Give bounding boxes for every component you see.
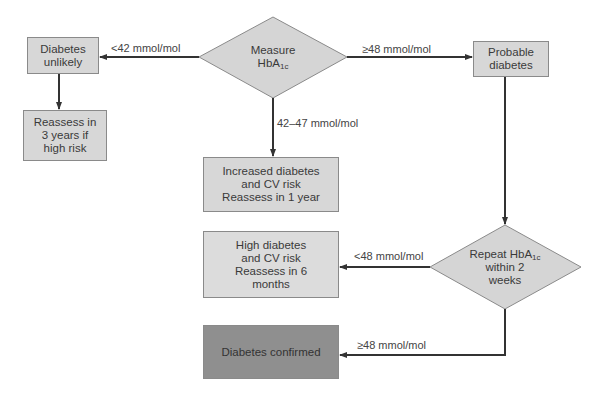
high-line2: and CV risk	[235, 252, 307, 265]
hba-subscript: 1c	[280, 62, 288, 71]
repeat-label: Repeat HbA	[469, 248, 532, 260]
edge-label-lt42: <42 mmol/mol	[111, 42, 180, 54]
high-line1: High diabetes	[235, 239, 307, 252]
increased-line2: and CV risk	[222, 178, 320, 191]
measure-label: Measure	[251, 44, 296, 56]
hba-label: HbA	[258, 57, 280, 69]
edge-label-ge48-top: ≥48 mmol/mol	[362, 43, 431, 55]
unlikely-line2: unlikely	[40, 56, 85, 69]
within-label: within 2	[486, 261, 525, 273]
reassess3-line2: 3 years if	[34, 129, 97, 142]
increased-line1: Increased diabetes	[222, 165, 320, 178]
probable-diabetes-box: Probable diabetes	[473, 41, 549, 77]
unlikely-line1: Diabetes	[40, 43, 85, 56]
confirmed-label: Diabetes confirmed	[221, 346, 320, 359]
diabetes-confirmed-box: Diabetes confirmed	[203, 325, 339, 379]
repeat-hba1c-text: Repeat HbA1c within 2 weeks	[460, 248, 550, 287]
edge-label-42-47: 42–47 mmol/mol	[277, 117, 358, 129]
increased-line3: Reassess in 1 year	[222, 191, 320, 204]
increased-risk-box: Increased diabetes and CV risk Reassess …	[203, 157, 339, 212]
weeks-label: weeks	[489, 274, 522, 286]
high-line4: months	[235, 278, 307, 291]
measure-hba1c-text: Measure HbA1c	[233, 44, 313, 70]
reassess3-line1: Reassess in	[34, 116, 97, 129]
reassess3-line3: high risk	[34, 142, 97, 155]
edge-label-ge48-bottom: ≥48 mmol/mol	[357, 339, 426, 351]
high-line3: Reassess in 6	[235, 265, 307, 278]
edge-label-lt48: <48 mmol/mol	[354, 250, 423, 262]
diabetes-unlikely-box: Diabetes unlikely	[27, 37, 99, 74]
reassess-3-years-box: Reassess in 3 years if high risk	[23, 110, 107, 161]
probable-line1: Probable	[488, 46, 534, 59]
high-risk-box: High diabetes and CV risk Reassess in 6 …	[203, 231, 339, 298]
repeat-subscript: 1c	[532, 253, 540, 262]
probable-line2: diabetes	[488, 59, 534, 72]
